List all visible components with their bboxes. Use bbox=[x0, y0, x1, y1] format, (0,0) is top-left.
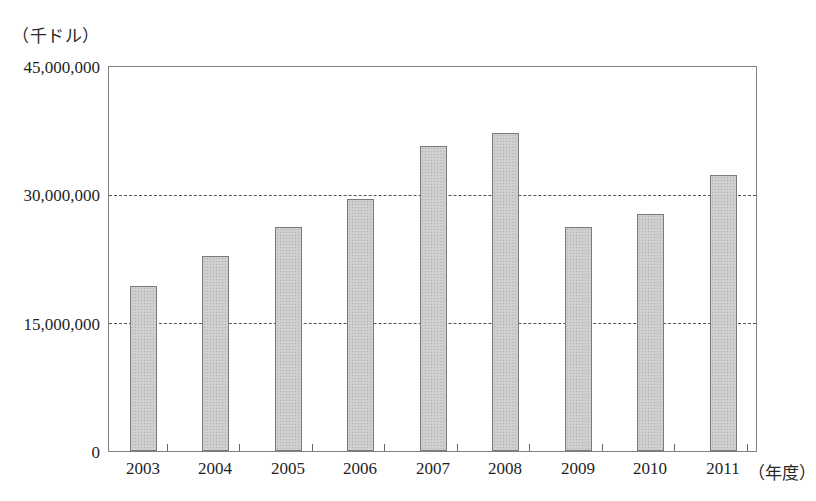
x-axis-tick bbox=[312, 444, 313, 451]
x-axis-tick bbox=[674, 444, 675, 451]
bar-2010 bbox=[637, 214, 664, 451]
x-axis-tick bbox=[529, 444, 530, 451]
bar-2006 bbox=[347, 199, 374, 451]
x-axis-tick bbox=[384, 444, 385, 451]
y-tick-label-45000000: 45,000,000 bbox=[0, 59, 100, 76]
bar-chart-figure: （千ドル） 45,000,000 30,000,000 15,000,000 0… bbox=[0, 0, 816, 501]
x-axis-tick bbox=[747, 444, 748, 451]
bar-2004 bbox=[202, 256, 229, 451]
bar-2009 bbox=[565, 227, 592, 451]
y-tick-label-0: 0 bbox=[0, 444, 100, 461]
x-axis-tick bbox=[457, 444, 458, 451]
x-axis-tick bbox=[239, 444, 240, 451]
x-axis-tick bbox=[167, 444, 168, 451]
y-tick-label-30000000: 30,000,000 bbox=[0, 187, 100, 204]
y-tick-label-15000000: 15,000,000 bbox=[0, 316, 100, 333]
bar-2008 bbox=[492, 133, 519, 451]
plot-area bbox=[108, 66, 757, 452]
bar-2011 bbox=[710, 175, 737, 451]
cropped-title-remnant bbox=[330, 0, 650, 5]
x-axis-tick bbox=[602, 444, 603, 451]
bar-2007 bbox=[420, 146, 447, 451]
y-axis-unit-caption: （千ドル） bbox=[12, 22, 100, 47]
bar-2003 bbox=[130, 286, 157, 452]
bar-2005 bbox=[275, 227, 302, 451]
x-axis-caption: （年度） bbox=[748, 459, 816, 484]
